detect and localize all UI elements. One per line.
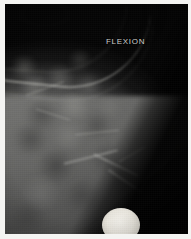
flexion-position-label: FLEXION bbox=[106, 37, 145, 46]
radiograph-figure: FLEXION bbox=[0, 0, 191, 239]
radiopaque-marker bbox=[102, 208, 140, 234]
film-frame: FLEXION bbox=[5, 4, 188, 234]
